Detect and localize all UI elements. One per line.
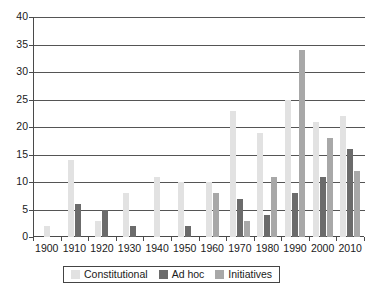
- legend-swatch-icon: [71, 270, 80, 279]
- bar-group-1900: [33, 17, 61, 237]
- bar-1920-ad-hoc: [102, 210, 108, 238]
- x-tick-mark-3: [116, 237, 117, 241]
- y-tick-label-0: 0: [2, 231, 28, 242]
- bar-group-1960: [199, 17, 227, 237]
- bar-1970-initiatives: [244, 221, 250, 238]
- bar-group-2000: [309, 17, 337, 237]
- x-tick-mark-1: [61, 237, 62, 241]
- legend-swatch-icon: [215, 270, 224, 279]
- bar-2000-initiatives: [327, 138, 333, 237]
- legend-item-constitutional[interactable]: Constitutional: [71, 269, 148, 280]
- x-tick-mark-0: [33, 237, 34, 241]
- legend-label: Initiatives: [228, 269, 272, 280]
- legend-item-initiatives[interactable]: Initiatives: [215, 269, 272, 280]
- bar-group-2010: [336, 17, 364, 237]
- x-tick-mark-9: [281, 237, 282, 241]
- bar-1980-ad-hoc: [264, 215, 270, 237]
- bar-1960-initiatives: [213, 193, 219, 237]
- legend-swatch-icon: [159, 270, 168, 279]
- x-tick-mark-5: [171, 237, 172, 241]
- bar-1990-constitutional: [285, 100, 291, 238]
- x-tick-mark-2: [88, 237, 89, 241]
- legend-label: Constitutional: [84, 269, 148, 280]
- x-tick-mark-10: [309, 237, 310, 241]
- bar-1980-initiatives: [271, 177, 277, 238]
- bar-1940-constitutional: [154, 177, 160, 238]
- bar-chart: 0510152025303540 19001910192019301940195…: [0, 0, 371, 295]
- y-tick-label-35: 35: [2, 39, 28, 50]
- bar-1970-constitutional: [230, 111, 236, 238]
- y-tick-label-10: 10: [2, 176, 28, 187]
- bar-2000-ad-hoc: [320, 177, 326, 238]
- bar-group-1920: [88, 17, 116, 237]
- bar-2010-ad-hoc: [347, 149, 353, 237]
- x-tick-mark-12: [364, 237, 365, 241]
- bar-1960-constitutional: [206, 182, 212, 237]
- bar-group-1980: [254, 17, 282, 237]
- bar-1980-constitutional: [257, 133, 263, 238]
- x-tick-mark-6: [199, 237, 200, 241]
- bar-1950-ad-hoc: [185, 226, 191, 237]
- bar-1970-ad-hoc: [237, 199, 243, 238]
- bar-1910-constitutional: [68, 160, 74, 237]
- x-axis-labels: 1900191019201930194019501960197019801990…: [33, 242, 364, 258]
- bar-group-1970: [226, 17, 254, 237]
- bar-group-1990: [281, 17, 309, 237]
- x-tick-mark-4: [143, 237, 144, 241]
- bar-1930-ad-hoc: [130, 226, 136, 237]
- y-tick-label-20: 20: [2, 121, 28, 132]
- y-tick-label-30: 30: [2, 66, 28, 77]
- bar-group-1940: [143, 17, 171, 237]
- bar-group-1950: [171, 17, 199, 237]
- bar-1930-constitutional: [123, 193, 129, 237]
- y-tick-label-15: 15: [2, 149, 28, 160]
- bar-1910-ad-hoc: [75, 204, 81, 237]
- bar-2000-constitutional: [313, 122, 319, 238]
- x-tick-mark-8: [254, 237, 255, 241]
- legend-label: Ad hoc: [172, 269, 205, 280]
- legend-item-ad-hoc[interactable]: Ad hoc: [159, 269, 205, 280]
- x-tick-label-2010: 2010: [333, 242, 367, 255]
- y-tick-label-25: 25: [2, 94, 28, 105]
- y-tick-label-40: 40: [2, 11, 28, 22]
- bar-1920-constitutional: [95, 221, 101, 238]
- bar-1990-initiatives: [299, 50, 305, 237]
- bar-series-container: [33, 17, 364, 237]
- bar-1990-ad-hoc: [292, 193, 298, 237]
- x-tick-mark-11: [336, 237, 337, 241]
- bar-1950-constitutional: [178, 182, 184, 237]
- bar-group-1910: [61, 17, 89, 237]
- bar-2010-initiatives: [354, 171, 360, 237]
- y-tick-label-5: 5: [2, 204, 28, 215]
- x-tick-mark-7: [226, 237, 227, 241]
- bar-2010-constitutional: [340, 116, 346, 237]
- bar-group-1930: [116, 17, 144, 237]
- bar-1900-constitutional: [44, 226, 50, 237]
- chart-legend: ConstitutionalAd hocInitiatives: [63, 266, 280, 283]
